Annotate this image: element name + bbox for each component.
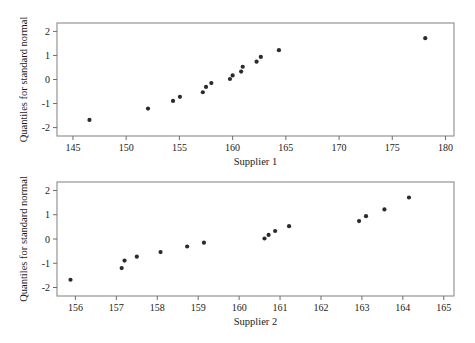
- plot-canvas-supplier-1: 145150155160165170175180210-1-2Supplier …: [0, 0, 475, 170]
- data-point: [364, 214, 368, 218]
- x-tick-label: 160: [225, 142, 240, 153]
- data-point: [202, 241, 206, 245]
- x-tick-label: 165: [278, 142, 293, 153]
- x-tick-label: 161: [273, 302, 288, 313]
- data-point: [122, 258, 126, 262]
- data-point: [120, 266, 124, 270]
- data-point: [201, 90, 205, 94]
- data-point: [68, 278, 72, 282]
- x-tick-label: 145: [65, 142, 80, 153]
- y-tick-label: -2: [42, 282, 50, 293]
- data-point: [259, 55, 263, 59]
- data-point: [254, 60, 258, 64]
- x-tick-label: 164: [395, 302, 410, 313]
- x-tick-label: 180: [438, 142, 453, 153]
- plot-frame: [57, 182, 454, 296]
- x-tick-label: 155: [172, 142, 187, 153]
- y-tick-label: 0: [45, 74, 50, 85]
- data-point: [185, 244, 189, 248]
- x-tick-label: 160: [232, 302, 247, 313]
- data-point: [273, 229, 277, 233]
- y-tick-label: -1: [42, 98, 50, 109]
- data-point: [382, 207, 386, 211]
- qq-plot-supplier-1: 145150155160165170175180210-1-2Supplier …: [0, 0, 475, 170]
- data-point: [204, 85, 208, 89]
- y-tick-label: 0: [45, 234, 50, 245]
- y-axis-title: Quantiles for standard normal: [18, 176, 29, 302]
- x-tick-label: 156: [68, 302, 83, 313]
- y-tick-label: -2: [42, 122, 50, 133]
- x-axis-title: Supplier 2: [234, 316, 277, 327]
- data-point: [231, 73, 235, 77]
- x-tick-label: 157: [109, 302, 124, 313]
- data-point: [266, 233, 270, 237]
- qq-plot-supplier-2: 156157158159160161162163164165210-1-2Sup…: [0, 168, 475, 343]
- data-point: [241, 65, 245, 69]
- data-point: [407, 195, 411, 199]
- data-point: [239, 69, 243, 73]
- data-point: [178, 95, 182, 99]
- x-axis-title: Supplier 1: [234, 156, 277, 167]
- data-point: [158, 250, 162, 254]
- y-axis-title: Quantiles for standard normal: [18, 17, 29, 143]
- data-point: [209, 81, 213, 85]
- data-point: [171, 99, 175, 103]
- y-tick-label: 2: [45, 185, 50, 196]
- y-tick-label: 1: [45, 209, 50, 220]
- data-point: [135, 255, 139, 259]
- y-tick-label: 1: [45, 50, 50, 61]
- data-point: [146, 106, 150, 110]
- x-tick-label: 165: [436, 302, 451, 313]
- data-point: [87, 118, 91, 122]
- data-point: [357, 219, 361, 223]
- y-tick-label: 2: [45, 26, 50, 37]
- x-tick-label: 158: [150, 302, 165, 313]
- x-tick-label: 150: [119, 142, 134, 153]
- x-tick-label: 159: [191, 302, 206, 313]
- x-tick-label: 175: [385, 142, 400, 153]
- plot-canvas-supplier-2: 156157158159160161162163164165210-1-2Sup…: [0, 168, 475, 343]
- data-point: [262, 236, 266, 240]
- x-tick-label: 162: [313, 302, 328, 313]
- data-point: [287, 224, 291, 228]
- data-point: [277, 48, 281, 52]
- plot-frame: [57, 23, 454, 136]
- x-tick-label: 163: [354, 302, 369, 313]
- data-point: [228, 77, 232, 81]
- y-tick-label: -1: [42, 258, 50, 269]
- data-point: [423, 36, 427, 40]
- x-tick-label: 170: [332, 142, 347, 153]
